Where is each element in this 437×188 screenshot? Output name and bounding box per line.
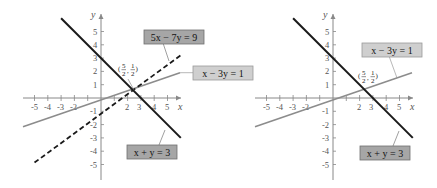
svg-text:5: 5 <box>362 69 366 77</box>
svg-text:5: 5 <box>122 62 126 70</box>
svg-text:,: , <box>127 67 129 75</box>
svg-text:5x − 7y = 9: 5x − 7y = 9 <box>151 32 197 43</box>
label-x-minus-3y-eq-1: x − 3y = 1 <box>180 66 253 80</box>
y-tick-label: -3 <box>322 133 329 143</box>
y-tick-label: -4 <box>90 146 98 156</box>
y-tick-label: 1 <box>325 80 329 90</box>
svg-text:(: ( <box>358 72 361 80</box>
svg-text:1: 1 <box>371 69 375 77</box>
x-tick-label: 2 <box>125 102 129 112</box>
svg-text:x − 3y = 1: x − 3y = 1 <box>202 68 243 79</box>
svg-text:2: 2 <box>371 77 375 85</box>
figure: -5 -4 -3 -2 2 3 4 5 x 5 4 3 2 1 -1 -2 -3… <box>0 0 437 188</box>
x-axis-label: x <box>409 101 415 112</box>
x-tick-label: -4 <box>44 102 52 112</box>
svg-text:): ) <box>136 65 139 73</box>
y-tick-label: 2 <box>93 66 97 76</box>
label-5x-minus-7y-eq-9: 5x − 7y = 9 <box>144 30 204 61</box>
y-tick-label: 2 <box>325 66 329 76</box>
y-tick-label: 4 <box>93 40 98 50</box>
y-tick-label: -1 <box>322 106 329 116</box>
svg-text:): ) <box>376 72 379 80</box>
x-tick-label: -4 <box>276 102 284 112</box>
y-tick-label: -4 <box>322 146 330 156</box>
y-tick-label: -5 <box>322 160 329 170</box>
x-axis-arrow-icon <box>408 96 413 101</box>
svg-text:x + y = 3: x + y = 3 <box>367 148 403 159</box>
y-axis-arrow-icon <box>99 14 104 19</box>
svg-text:2: 2 <box>122 70 126 78</box>
x-tick-label: 3 <box>137 102 141 112</box>
y-tick-label: -3 <box>90 133 97 143</box>
left-graph: -5 -4 -3 -2 2 3 4 5 x 5 4 3 2 1 -1 -2 -3… <box>23 9 253 180</box>
svg-text:2: 2 <box>131 70 135 78</box>
intersection-label: ( 5 2 , 1 2 ) <box>358 69 379 85</box>
svg-text:,: , <box>367 74 369 82</box>
x-tick-label: -3 <box>289 102 296 112</box>
right-graph: -5 -4 -3 -2 2 3 4 5 x 5 4 3 2 1 -1 -2 -3… <box>255 9 422 180</box>
y-tick-label: -2 <box>322 120 329 130</box>
y-axis-label: y <box>322 9 328 20</box>
label-x-plus-y-eq-3: x + y = 3 <box>360 131 410 160</box>
x-tick-label: 5 <box>165 102 169 112</box>
svg-text:1: 1 <box>131 62 135 70</box>
y-axis-label: y <box>90 9 96 20</box>
y-tick-label: 4 <box>325 40 330 50</box>
y-tick-label: -5 <box>90 160 97 170</box>
y-tick-label: -1 <box>90 106 97 116</box>
svg-text:2: 2 <box>362 77 366 85</box>
svg-text:x + y = 3: x + y = 3 <box>134 147 170 158</box>
x-tick-label: 2 <box>357 102 361 112</box>
x-axis-arrow-icon <box>176 96 181 101</box>
x-tick-label: 3 <box>369 102 373 112</box>
label-x-plus-y-eq-3: x + y = 3 <box>127 130 177 159</box>
y-tick-label: 5 <box>325 27 329 37</box>
svg-text:x − 3y = 1: x − 3y = 1 <box>371 45 412 56</box>
y-tick-label: -2 <box>90 120 97 130</box>
y-tick-label: 1 <box>93 80 97 90</box>
x-tick-label: -3 <box>57 102 64 112</box>
x-tick-label: -5 <box>263 102 270 112</box>
x-tick-label: -5 <box>31 102 38 112</box>
y-axis-arrow-icon <box>331 14 336 19</box>
x-tick-label: 5 <box>397 102 401 112</box>
x-axis-label: x <box>177 101 183 112</box>
svg-text:(: ( <box>118 65 121 73</box>
y-tick-label: 5 <box>93 27 97 37</box>
